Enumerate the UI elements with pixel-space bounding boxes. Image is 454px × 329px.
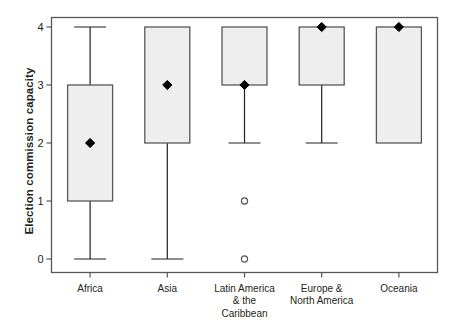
box-body [222,27,267,85]
y-axis-tick-label: 3 [28,79,44,91]
box-plot-group [376,22,421,143]
x-axis-tick-label-line: Oceania [360,283,437,296]
y-axis-label: Election commission capacity [23,26,35,276]
box-body [376,27,421,143]
x-axis-tick-label-line: & the [206,295,283,308]
outlier-point [241,198,247,204]
x-axis-tick-label: Latin America& theCaribbean [206,283,283,321]
x-axis-tick-label: Africa [52,283,129,296]
x-axis-tick-label: Asia [129,283,206,296]
x-axis-tick-label-line: Asia [129,283,206,296]
x-axis-tick-label: Europe &North America [283,283,360,308]
x-axis-tick-label-line: Europe & [283,283,360,296]
y-axis-tick-label: 1 [28,195,44,207]
outlier-point [241,256,247,262]
box-plot-group [222,27,267,262]
y-axis-tick-label: 2 [28,137,44,149]
y-axis-tick-label: 0 [28,253,44,265]
y-axis-tick-label: 4 [28,21,44,33]
x-axis-tick-label-line: Caribbean [206,308,283,321]
box-plot-group [145,27,190,259]
plot-canvas [0,0,454,329]
box-plot-group [299,22,344,143]
x-axis-tick-label: Oceania [360,283,437,296]
x-axis-tick-label-line: Latin America [206,283,283,296]
boxplot-figure: Election commission capacity 01234 Afric… [0,0,454,329]
x-axis-tick-label-line: Africa [52,283,129,296]
box-body [299,27,344,85]
x-axis-tick-label-line: North America [283,295,360,308]
box-plot-group [68,27,113,259]
